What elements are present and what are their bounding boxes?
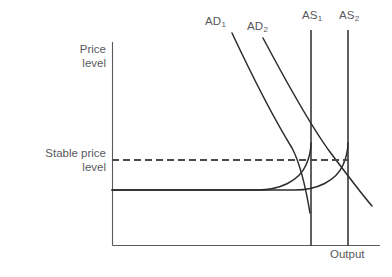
- as1-curve: [112, 143, 311, 190]
- as1-label-subscript: 1: [317, 14, 322, 23]
- as2-label: AS2: [339, 8, 359, 24]
- stable-price-level-label: Stable price level: [6, 146, 106, 174]
- y-axis-label-line2: level: [82, 57, 106, 69]
- y-axis-label-line1: Price: [80, 43, 106, 55]
- as2-label-text: AS: [339, 9, 354, 21]
- as2-label-subscript: 2: [354, 14, 359, 23]
- x-axis-label: Output: [330, 247, 365, 261]
- as1-label-text: AS: [302, 9, 317, 21]
- ad1-label: AD1: [205, 14, 226, 30]
- ad2-label-text: AD: [247, 20, 263, 32]
- ad2-curve: [263, 38, 372, 206]
- ad1-curve: [232, 33, 310, 213]
- stable-price-label-line1: Stable price: [45, 147, 106, 159]
- as2-curve: [112, 143, 348, 190]
- ad1-label-text: AD: [205, 15, 221, 27]
- stable-price-label-line2: level: [82, 161, 106, 173]
- y-axis-label: Price level: [38, 42, 106, 70]
- ad2-label-subscript: 2: [263, 25, 268, 34]
- ad-as-diagram: Price level Stable price level Output AD…: [0, 0, 392, 277]
- ad1-label-subscript: 1: [221, 20, 226, 29]
- x-axis-label-text: Output: [330, 248, 365, 260]
- as1-label: AS1: [302, 8, 322, 24]
- ad2-label: AD2: [247, 19, 268, 35]
